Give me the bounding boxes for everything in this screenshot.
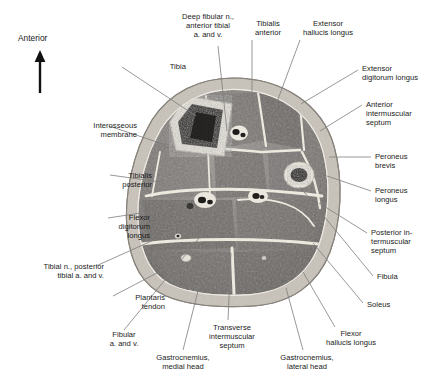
label-fibula: Fibula: [377, 272, 398, 281]
label-plantaris-tendon: Plantaris tendon: [75, 293, 165, 311]
label-flexor-digitorum-longus: Flexor digitorum longus: [60, 213, 150, 241]
label-peroneus-brevis: Peroneus brevis: [375, 152, 408, 170]
label-tibialis-posterior: Tibialis posterior: [62, 171, 152, 189]
label-posterior-intermuscular-septum: Posterior in- termuscular septum: [371, 228, 412, 256]
plantaris-tendon-structure: [181, 255, 191, 262]
fibula-bone: [284, 162, 314, 188]
label-tibial-nerve-posterior-tibial: Tibial n., posterior tibial a. and v.: [14, 262, 104, 280]
label-flexor-hallucis-longus: Flexor hallucis longus: [315, 329, 387, 347]
up-arrow-icon: [30, 48, 50, 94]
label-soleus: Soleus: [367, 300, 390, 309]
label-extensor-digitorum-longus: Extensor digitorum longus: [362, 64, 418, 82]
label-anterior-intermuscular-septum: Anterior intermuscular septum: [366, 100, 412, 128]
label-tibia: Tibia: [96, 62, 186, 71]
label-gastrocnemius-medial-head: Gastrocnemius, medial head: [147, 353, 219, 371]
label-fibular-artery-vein: Fibular a. and v.: [88, 330, 160, 348]
label-transverse-intermuscular-septum: Transverse intermuscular septum: [196, 323, 268, 351]
label-interosseous-membrane: Interosseous membrane: [47, 121, 137, 139]
anatomy-figure-panel: Anterior TibiaDeep fibular n., anterior …: [0, 0, 433, 381]
label-extensor-hallucis-longus: Extensor hallucis longus: [292, 19, 364, 37]
label-gastrocnemius-lateral-head: Gastrocnemius, lateral head: [271, 353, 343, 371]
label-peroneus-longus: Peroneus longus: [375, 186, 408, 204]
orientation-label: Anterior: [18, 33, 47, 43]
